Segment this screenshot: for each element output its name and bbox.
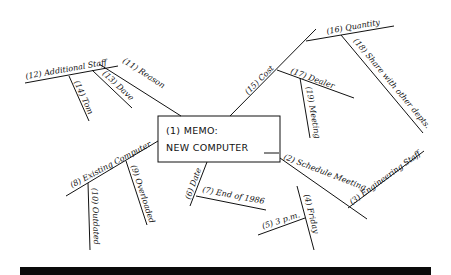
branch-outdated-line bbox=[88, 183, 90, 250]
mind-map-canvas: (1) MEMO: NEW COMPUTER (11) Reason (12) … bbox=[0, 0, 451, 275]
label-schedule-meeting: (2) Schedule Meeting bbox=[282, 152, 367, 192]
label-share: (18) Share with other depts. bbox=[351, 37, 432, 131]
label-outdated: (10) Outdated bbox=[90, 188, 101, 245]
label-cost: (15) Cost bbox=[243, 63, 276, 96]
label-tom: (14) Tom bbox=[72, 79, 95, 116]
label-engineering-staff: (3) Engineering Staff bbox=[348, 148, 424, 206]
center-memo-box bbox=[158, 116, 280, 162]
center-subtitle: NEW COMPUTER bbox=[166, 142, 249, 153]
label-dave: (13) Dave bbox=[101, 69, 136, 103]
center-title: (1) MEMO: bbox=[166, 125, 218, 136]
branch-share-line bbox=[341, 35, 423, 133]
label-meeting: (19) Meeting bbox=[304, 86, 322, 139]
label-overloaded: (9) Overloaded bbox=[129, 164, 156, 224]
label-additional-staff: (12) Additional Staff bbox=[25, 58, 109, 81]
label-3pm: (5) 3 p.m. bbox=[261, 210, 301, 231]
label-date: (6) Date bbox=[183, 166, 203, 200]
label-end-of-1986: (7) End of 1986 bbox=[202, 185, 266, 206]
label-reason: (11) Reason bbox=[121, 56, 167, 90]
bottom-black-bar bbox=[20, 267, 431, 275]
